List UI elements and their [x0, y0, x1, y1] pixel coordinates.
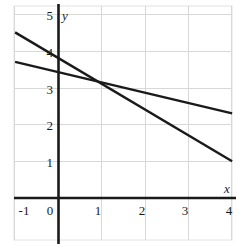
x-tick-2: 2 — [139, 204, 146, 217]
x-tick-1: 1 — [95, 204, 102, 217]
coordinate-graph: y x 5 4 3 2 1 -1 0 1 2 3 4 — [0, 0, 245, 250]
plot-canvas — [0, 0, 245, 250]
y-tick-5: 5 — [39, 9, 53, 22]
y-tick-3: 3 — [39, 83, 53, 96]
x-tick-0: 0 — [47, 204, 54, 217]
x-tick-3: 3 — [182, 204, 189, 217]
x-axis-label: x — [224, 182, 230, 195]
y-tick-2: 2 — [39, 119, 53, 132]
y-tick-4: 4 — [39, 46, 53, 59]
x-tick-4: 4 — [226, 204, 233, 217]
y-tick-1: 1 — [39, 156, 53, 169]
y-axis-label: y — [62, 9, 68, 22]
x-tick--1: -1 — [19, 204, 30, 217]
